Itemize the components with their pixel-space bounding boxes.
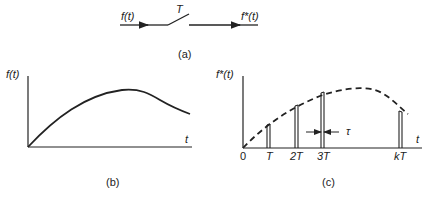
x-axis-label: t <box>185 133 189 145</box>
y-axis-label: f(t) <box>6 68 20 80</box>
panel-a-sampler: f(t) T f*(t) (a) <box>120 3 259 60</box>
panel-c-sampled-signal: τ f*(t) t 0 T 2T 3T kT (c) <box>216 68 422 188</box>
sample-pulse <box>267 124 270 148</box>
tick-label-kT: kT <box>394 150 408 162</box>
caption-a: (a) <box>178 48 191 60</box>
tick-label-T: T <box>266 150 274 162</box>
signal-curve <box>28 90 190 147</box>
input-label: f(t) <box>121 10 135 22</box>
y-axis-label: f*(t) <box>216 68 234 80</box>
sample-pulse <box>321 92 324 148</box>
sample-pulse <box>295 105 298 148</box>
caption-c: (c) <box>322 176 335 188</box>
sampler-diagram: f(t) T f*(t) (a) f(t) t (b) <box>0 0 430 200</box>
output-label: f*(t) <box>241 10 259 22</box>
pulse-width-label: τ <box>346 125 351 137</box>
tick-label-2T: 2T <box>289 150 304 162</box>
caption-b: (b) <box>106 176 119 188</box>
envelope-curve <box>243 88 408 148</box>
panel-b-continuous-signal: f(t) t (b) <box>6 68 192 188</box>
switch-period-label: T <box>176 3 184 15</box>
sample-pulse <box>399 111 402 148</box>
switch-blade <box>168 14 189 25</box>
x-axis-label: t <box>416 133 420 145</box>
origin-label: 0 <box>240 150 246 162</box>
tick-label-3T: 3T <box>317 150 331 162</box>
